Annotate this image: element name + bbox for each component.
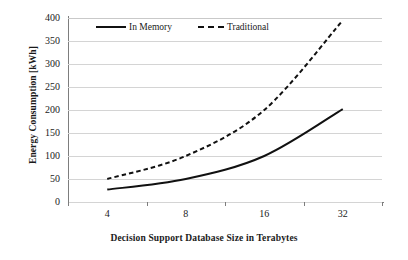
chart-legend: In Memory Traditional (96, 22, 269, 32)
legend-label-in-memory: In Memory (129, 22, 172, 32)
x-axis-tick-mark (147, 202, 148, 206)
x-axis-tick-mark (68, 202, 69, 206)
y-axis-tick-label: 0 (26, 197, 60, 207)
y-axis-tick-label: 300 (26, 59, 60, 69)
x-axis-tick-label: 8 (166, 208, 206, 219)
y-axis-tick-label: 150 (26, 128, 60, 138)
line-chart: Energy Consumption [kWh] 050100150200250… (0, 0, 408, 260)
legend-item-traditional: Traditional (198, 22, 269, 32)
y-axis-tick-label: 50 (26, 174, 60, 184)
x-axis-tick-mark (382, 202, 383, 206)
x-axis-tick-label: 4 (87, 208, 127, 219)
y-axis-tick-label: 200 (26, 105, 60, 115)
legend-item-in-memory: In Memory (96, 22, 172, 32)
x-axis-title: Decision Support Database Size in Teraby… (0, 233, 408, 243)
y-axis-tick-label: 250 (26, 82, 60, 92)
y-axis-tick-label: 100 (26, 151, 60, 161)
x-axis-tick-label: 16 (244, 208, 284, 219)
x-axis-tick-label: 32 (323, 208, 363, 219)
plot-area (68, 18, 382, 202)
series-line-in-memory (107, 109, 343, 190)
series-layer (68, 18, 382, 202)
x-axis-tick-mark (304, 202, 305, 206)
legend-label-traditional: Traditional (227, 22, 269, 32)
legend-swatch-dashed-icon (198, 26, 224, 28)
x-axis-tick-mark (225, 202, 226, 206)
legend-swatch-solid-icon (96, 26, 126, 28)
series-line-traditional (107, 20, 343, 179)
y-axis-tick-label: 400 (26, 13, 60, 23)
y-axis-tick-label: 350 (26, 36, 60, 46)
